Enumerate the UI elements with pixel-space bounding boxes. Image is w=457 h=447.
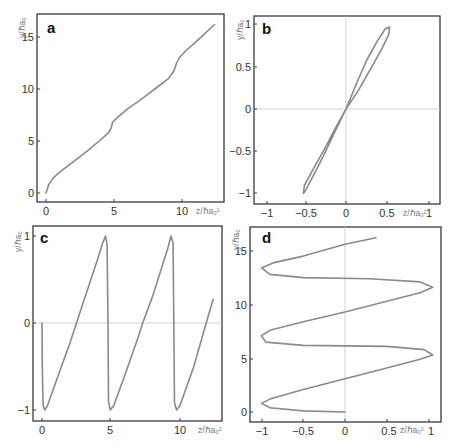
panel-b-xtick-0: 0 bbox=[343, 207, 349, 219]
panel-a-ytick-0: 0 bbox=[28, 187, 34, 199]
panel-d-ytick-5: 5 bbox=[241, 353, 247, 365]
panel-b-ytick-0: 0 bbox=[245, 103, 251, 115]
panel-d-frame bbox=[250, 227, 441, 422]
panel-a-ylabel: y/ℏa₀ bbox=[17, 17, 27, 38]
panel-c-letter: c bbox=[40, 229, 48, 246]
panel-a-curve bbox=[46, 25, 215, 194]
panel-a-xtick-10: 10 bbox=[176, 205, 188, 217]
panel-c-xlabel: z/ℏa₀² bbox=[198, 425, 222, 435]
panel-d-xtick-1: 1 bbox=[428, 425, 434, 437]
panel-d-xtick-05: 0.5 bbox=[381, 425, 396, 437]
panel-b-letter: b bbox=[262, 20, 271, 37]
panel-c-xtick-10: 10 bbox=[174, 424, 186, 436]
panel-d-xtick-neg05: −0.5 bbox=[292, 425, 314, 437]
panel-b-xtick-neg05: −0.5 bbox=[295, 207, 317, 219]
panel-c: c 0 5 10 −1 0 1 z/ℏa₀² y/ℏa₀ bbox=[13, 226, 222, 436]
panel-b-xtick-1: 1 bbox=[426, 207, 432, 219]
panel-b-ytick-neg05: −0.5 bbox=[229, 145, 251, 157]
panel-d: d −1 −0.5 0 0.5 1 0 5 10 15 z/ℏa₀² y/ℏa₀ bbox=[231, 227, 441, 437]
panel-b-frame bbox=[254, 16, 440, 204]
panel-c-ytick-0: 0 bbox=[24, 317, 30, 329]
panel-c-ytick-neg1: −1 bbox=[17, 404, 30, 416]
panel-c-frame bbox=[33, 226, 222, 421]
panel-b-xlabel: z/ℏa₀² bbox=[403, 208, 427, 218]
panel-b-ytick-05: 0.5 bbox=[236, 61, 251, 73]
panel-b-yticks: −1 −0.5 0 0.5 1 bbox=[229, 18, 257, 199]
panel-b: b −1 −0.5 0 0.5 1 −1 −0.5 0 0.5 1 z/ℏa₀²… bbox=[229, 16, 440, 219]
panel-c-xtick-0: 0 bbox=[39, 424, 45, 436]
panel-a-xtick-0: 0 bbox=[43, 205, 49, 217]
panel-b-ylabel: y/ℏa₀ bbox=[235, 19, 245, 40]
panel-d-letter: d bbox=[262, 229, 271, 246]
panel-b-xtick-05: 0.5 bbox=[379, 207, 394, 219]
panel-c-ylabel: y/ℏa₀ bbox=[13, 231, 23, 252]
panel-d-ytick-10: 10 bbox=[235, 299, 247, 311]
figure-canvas: a 0 5 10 0 5 10 15 z/ℏa₀² y/ℏa₀ b −1 −0.… bbox=[0, 0, 457, 447]
panel-b-curve bbox=[303, 27, 389, 194]
panel-a-letter: a bbox=[47, 19, 56, 36]
panel-a-xlabel: z/ℏa₀² bbox=[196, 206, 220, 216]
panel-d-curve bbox=[262, 238, 433, 412]
panel-d-ylabel: y/ℏa₀ bbox=[231, 229, 241, 250]
panel-d-xtick-neg1: −1 bbox=[256, 425, 269, 437]
panel-c-xtick-5: 5 bbox=[107, 424, 113, 436]
panel-d-xlabel: z/ℏa₀² bbox=[400, 425, 424, 435]
panel-d-ytick-0: 0 bbox=[241, 406, 247, 418]
panel-a-ytick-5: 5 bbox=[28, 135, 34, 147]
panel-b-ytick-1: 1 bbox=[245, 18, 251, 30]
panel-c-ytick-1: 1 bbox=[24, 230, 30, 242]
panel-a-ytick-10: 10 bbox=[22, 83, 34, 95]
panel-a-xtick-5: 5 bbox=[111, 205, 117, 217]
panel-b-xtick-neg1: −1 bbox=[261, 207, 274, 219]
panel-a: a 0 5 10 0 5 10 15 z/ℏa₀² y/ℏa₀ bbox=[17, 14, 224, 217]
panel-d-xtick-0: 0 bbox=[342, 425, 348, 437]
panel-b-ytick-neg1: −1 bbox=[238, 187, 251, 199]
